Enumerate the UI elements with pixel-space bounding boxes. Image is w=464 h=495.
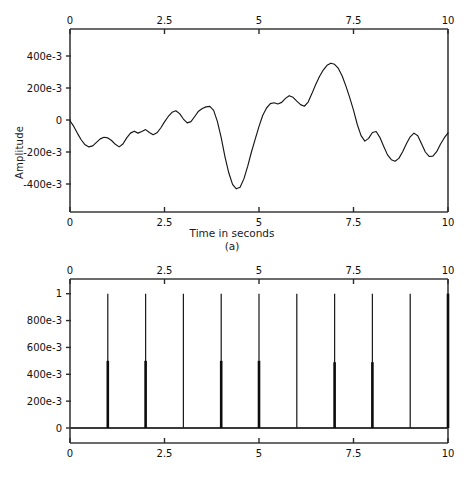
x-tick-label-top: 10 <box>442 265 455 276</box>
x-tick-label-bottom: 7.5 <box>346 448 362 459</box>
x-tick-label-bottom: 0 <box>67 448 73 459</box>
x-tick-label-top: 7.5 <box>346 265 362 276</box>
panel-b-tick-labels: 02.557.51002.557.5100200e-3400e-3600e-38… <box>27 265 455 459</box>
x-tick-label-top: 5 <box>256 15 262 26</box>
signal-waveform-path <box>70 63 448 189</box>
y-tick-label: 200e-3 <box>27 396 62 407</box>
x-tick-label-top: 7.5 <box>346 15 362 26</box>
panel-a-x-axis-label: Time in seconds <box>0 227 464 239</box>
y-tick-label: 800e-3 <box>27 315 62 326</box>
x-tick-label-top: 2.5 <box>157 265 173 276</box>
y-tick-label: -400e-3 <box>23 179 62 190</box>
x-tick-label-top: 0 <box>67 265 73 276</box>
y-tick-label: 400e-3 <box>27 369 62 380</box>
y-tick-label: 400e-3 <box>27 51 62 62</box>
panel-a-axes-frame <box>70 29 448 212</box>
panel-a-waveform <box>70 63 448 189</box>
x-tick-label-top: 2.5 <box>157 15 173 26</box>
x-tick-label-bottom: 5 <box>256 448 262 459</box>
panel-a-y-axis-label: Amplitude <box>14 125 25 178</box>
y-tick-label: 600e-3 <box>27 342 62 353</box>
y-tick-label: -200e-3 <box>23 147 62 158</box>
x-tick-label-top: 0 <box>67 15 73 26</box>
y-tick-label: 200e-3 <box>27 83 62 94</box>
panel-b-impulse-plot: 02.557.51002.557.5100200e-3400e-3600e-38… <box>0 250 464 495</box>
y-tick-label: 0 <box>56 115 62 126</box>
panel-b-canvas: 02.557.51002.557.5100200e-3400e-3600e-38… <box>0 250 464 495</box>
panel-b-tick-marks <box>66 279 448 443</box>
x-tick-label-top: 10 <box>442 15 455 26</box>
panel-a-tick-labels: 02.557.51002.557.510-400e-3-200e-30200e-… <box>23 15 454 228</box>
y-tick-label: 0 <box>56 423 62 434</box>
x-tick-label-bottom: 2.5 <box>157 448 173 459</box>
panel-b-impulse-train <box>70 294 448 428</box>
panel-a-tick-marks <box>66 29 448 212</box>
panel-a-signal-plot: 02.557.51002.557.510-400e-3-200e-30200e-… <box>0 0 464 250</box>
x-tick-label-bottom: 10 <box>442 448 455 459</box>
y-tick-label: 1 <box>56 288 62 299</box>
panel-a-canvas: 02.557.51002.557.510-400e-3-200e-30200e-… <box>0 0 464 250</box>
x-tick-label-top: 5 <box>256 265 262 276</box>
figure-container: 02.557.51002.557.510-400e-3-200e-30200e-… <box>0 0 464 495</box>
